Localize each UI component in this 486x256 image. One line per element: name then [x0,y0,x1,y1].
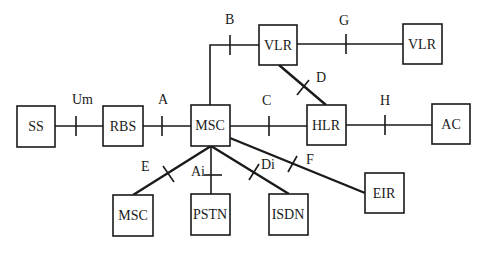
node-ss-label: SS [28,119,44,134]
label-b: B [225,12,234,27]
label-c: C [262,93,271,108]
label-d: D [316,70,326,85]
link-msc-eir [230,138,365,193]
node-msc-2: MSC [113,195,153,236]
node-ss: SS [17,106,55,147]
label-e: E [141,159,150,174]
node-msc-label: MSC [195,118,225,133]
node-isdn-label: ISDN [272,207,305,222]
label-f: F [306,152,314,167]
node-vlr-1-label: VLR [264,38,293,53]
node-hlr: HLR [307,105,346,145]
node-vlr-2: VLR [403,24,442,64]
node-msc-2-label: MSC [118,208,148,223]
node-pstn-label: PSTN [193,207,227,222]
node-rbs: RBS [103,106,143,146]
label-um: Um [72,92,93,107]
tick-di [249,164,259,180]
node-ac-label: AC [441,117,460,132]
gsm-network-diagram: Um A B G D C H E Ai Di F SS RBS MSC HLR … [0,0,486,256]
node-eir-label: EIR [373,186,396,201]
node-pstn: PSTN [191,194,230,235]
node-isdn: ISDN [269,194,308,235]
node-eir: EIR [365,173,404,213]
label-di: Di [261,157,275,172]
node-vlr-1: VLR [259,25,297,65]
label-ai: Ai [191,164,205,179]
node-vlr-2-label: VLR [408,37,437,52]
link-msc-isdn [211,146,289,194]
node-msc: MSC [191,105,230,146]
label-h: H [380,93,390,108]
node-ac: AC [432,104,470,144]
label-a: A [158,92,169,107]
label-g: G [339,13,349,28]
node-rbs-label: RBS [110,119,136,134]
node-hlr-label: HLR [312,118,341,133]
link-msc-vlr [210,45,259,105]
